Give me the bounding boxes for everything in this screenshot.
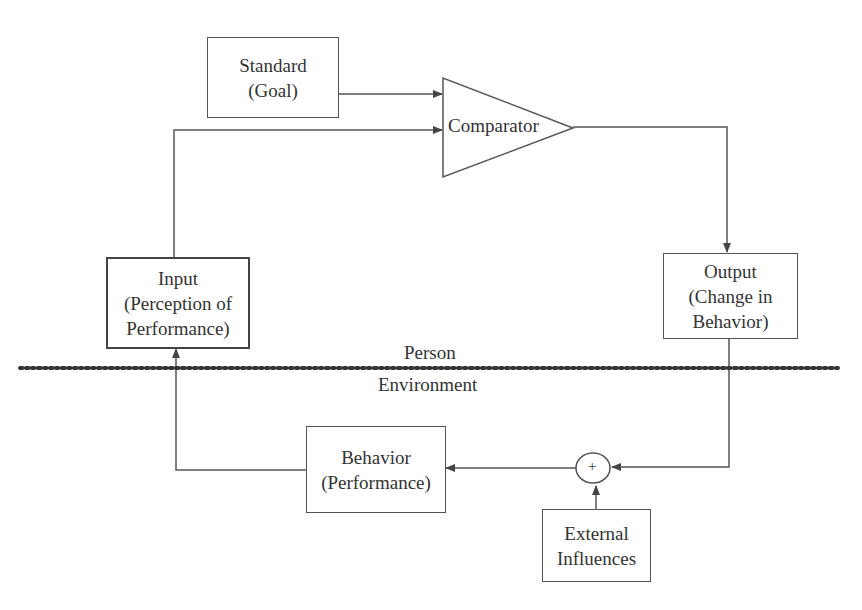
standard-box: Standard (Goal)	[207, 37, 339, 118]
person-region-label: Person	[404, 342, 456, 364]
input-sublabel-1: (Perception of	[124, 291, 232, 316]
plus-icon: +	[588, 458, 596, 475]
arrow-comparator-to-output	[573, 127, 727, 252]
behavior-sublabel: (Performance)	[321, 470, 431, 495]
arrow-output-to-sum	[612, 338, 729, 467]
standard-label: Standard	[239, 53, 307, 78]
output-sublabel-2: Behavior)	[693, 309, 769, 334]
behavior-box: Behavior (Performance)	[306, 426, 446, 513]
behavior-label: Behavior	[341, 445, 411, 470]
output-label: Output	[704, 259, 757, 284]
input-box: Input (Perception of Performance)	[106, 257, 250, 349]
standard-sublabel: (Goal)	[248, 78, 298, 103]
output-box: Output (Change in Behavior)	[663, 253, 798, 339]
output-sublabel-1: (Change in	[689, 284, 773, 309]
external-label-1: External	[564, 521, 628, 546]
external-label-2: Influences	[557, 546, 636, 571]
input-sublabel-2: Performance)	[126, 316, 229, 341]
environment-region-label: Environment	[378, 374, 477, 396]
input-label: Input	[158, 266, 198, 291]
arrow-input-to-comparator	[174, 130, 442, 257]
external-influences-box: External Influences	[542, 509, 651, 582]
comparator-label: Comparator	[448, 115, 539, 137]
